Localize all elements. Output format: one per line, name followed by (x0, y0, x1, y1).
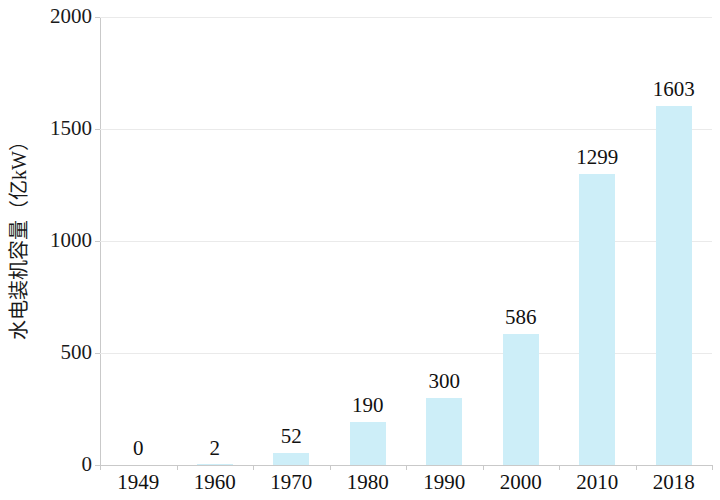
y-axis-tick-label: 2000 (30, 6, 92, 27)
x-axis-tick-label: 2018 (629, 472, 719, 493)
bar-value-label: 586 (476, 307, 566, 328)
bar-value-label: 52 (246, 426, 336, 447)
bar (579, 174, 615, 465)
bar (350, 422, 386, 465)
x-axis-tick (406, 465, 407, 470)
x-axis-tick (253, 465, 254, 470)
bar-value-label: 190 (323, 395, 413, 416)
y-axis-tick-label: 1000 (30, 230, 92, 251)
y-axis-tick-label: 1500 (30, 118, 92, 139)
x-axis-tick (483, 465, 484, 470)
y-axis-tick-label: 0 (30, 454, 92, 475)
x-axis-tick (100, 465, 101, 470)
bar-value-label: 300 (399, 371, 489, 392)
y-axis-title: 水电装机容量（亿kW） (0, 0, 34, 470)
y-axis-title-text: 水电装机容量（亿kW） (3, 131, 32, 340)
x-axis-tick (330, 465, 331, 470)
x-axis-tick (712, 465, 713, 470)
bar (426, 398, 462, 465)
x-axis-tick (177, 465, 178, 470)
bar-value-label: 1603 (629, 79, 719, 100)
bar-value-label: 1299 (552, 147, 642, 168)
y-axis-tick-label: 500 (30, 342, 92, 363)
bar (273, 453, 309, 465)
bar (197, 464, 233, 465)
bar (656, 106, 692, 465)
x-axis-tick (636, 465, 637, 470)
x-axis-tick (559, 465, 560, 470)
bar (503, 334, 539, 465)
bar-chart: 水电装机容量（亿kW） 0500100015002000 02521903005… (0, 0, 720, 500)
